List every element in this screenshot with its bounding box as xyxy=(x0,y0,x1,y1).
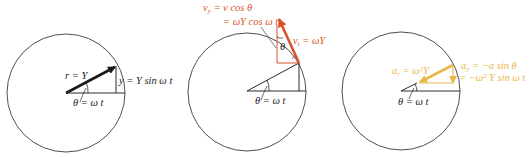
angle-label: θ = ω t xyxy=(398,96,430,107)
angle-arc xyxy=(86,82,88,93)
vy-label-leader xyxy=(261,27,276,48)
ay-label-line2: = −ω² Y sin ω t xyxy=(459,72,526,83)
velocity-panel: θ vy = v cos θ = ωY cos ω t vt = ωY θ = … xyxy=(188,2,326,151)
displacement-label: y = Y sin ω t xyxy=(118,75,173,86)
angle-arc xyxy=(415,84,417,91)
acceleration-panel: ar = ω²Y ay = −a sin θ = −ω² Y sin ω t θ… xyxy=(342,32,526,150)
angle-label: θ = ω t xyxy=(73,97,105,108)
radius-stub-line xyxy=(401,83,417,91)
circular-motion-diagram: r = Y y = Y sin ω t θ = ω t θ vy = v cos… xyxy=(0,0,532,157)
inner-angle-label: θ xyxy=(280,41,285,52)
vy-label-line2: = ωY cos ω t xyxy=(223,16,279,27)
position-panel: r = Y y = Y sin ω t θ = ω t xyxy=(7,34,173,152)
radius-label: r = Y xyxy=(65,70,88,81)
tangential-velocity-label: vt = ωY xyxy=(293,35,326,48)
reference-circle xyxy=(188,33,306,151)
inner-angle-arc xyxy=(277,37,283,38)
angle-arc xyxy=(267,80,269,91)
radius-line xyxy=(247,63,299,91)
vy-label-line1: vy = v cos θ xyxy=(203,2,252,15)
radial-acceleration-label: ar = ω²Y xyxy=(392,65,430,78)
angle-label: θ = ω t xyxy=(255,95,287,106)
